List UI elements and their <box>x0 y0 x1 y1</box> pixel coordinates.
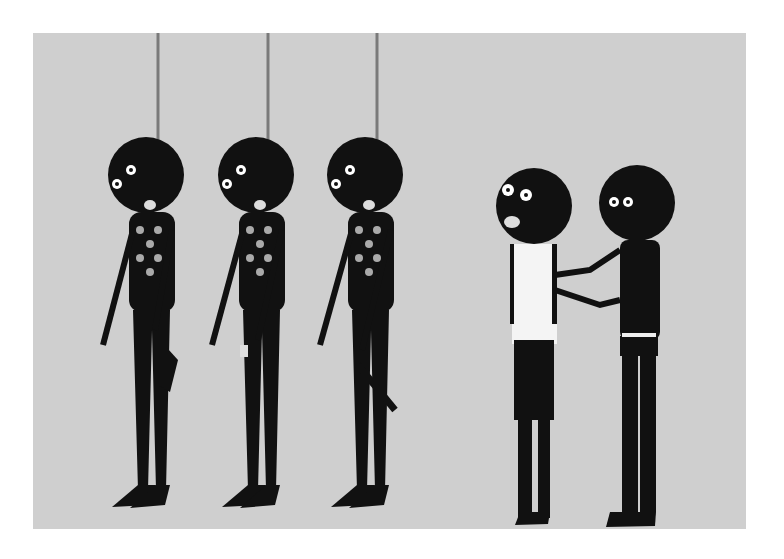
hanging-figure-3 <box>320 137 403 508</box>
standing-figure-black <box>555 165 675 527</box>
ropes <box>158 33 377 140</box>
artwork-illustration <box>33 33 746 529</box>
standing-figure-white-tank <box>496 168 572 525</box>
artwork-canvas <box>33 33 746 529</box>
hanging-figure-1 <box>103 137 184 508</box>
hanging-figure-2 <box>212 137 294 508</box>
